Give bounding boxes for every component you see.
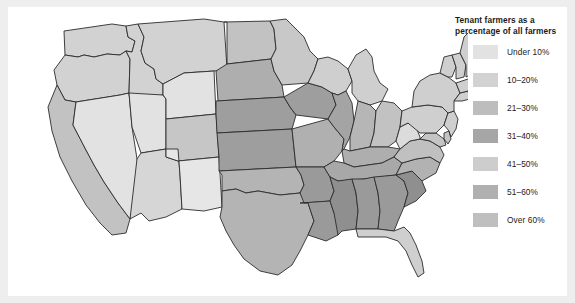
legend-label-51-60: 51–60% — [507, 187, 538, 197]
legend-label-31-40: 31–40% — [507, 131, 538, 141]
us-map-svg — [8, 7, 468, 296]
legend-label-21-30: 21–30% — [507, 103, 538, 113]
state-NE — [216, 97, 296, 133]
legend-title-line-1: Tenant farmers as a — [455, 15, 535, 25]
state-KS — [217, 129, 296, 171]
legend-item-51-60: 51–60% — [455, 184, 567, 199]
legend-swatch-41-50 — [473, 157, 498, 171]
map-plate: Tenant farmers as a percentage of all fa… — [8, 7, 567, 296]
legend-swatch-under-10 — [473, 45, 498, 59]
legend-swatch-over-60 — [473, 213, 498, 227]
legend-title: Tenant farmers as a percentage of all fa… — [455, 15, 567, 37]
state-GA — [374, 175, 408, 231]
figure-root: Tenant farmers as a percentage of all fa… — [0, 0, 575, 303]
legend-item-31-40: 31–40% — [455, 128, 567, 143]
legend-swatch-21-30 — [473, 101, 498, 115]
state-FL — [356, 227, 424, 277]
state-ND — [224, 21, 276, 64]
legend-title-line-2: percentage of all farmers — [455, 26, 556, 36]
legend-label-41-50: 41–50% — [507, 159, 538, 169]
legend-label-10-20: 10–20% — [507, 75, 538, 85]
legend-item-over-60: Over 60% — [455, 212, 567, 227]
legend-item-21-30: 21–30% — [455, 100, 567, 115]
state-TX — [220, 189, 314, 275]
legend-swatch-31-40 — [473, 129, 498, 143]
legend-label-under-10: Under 10% — [507, 47, 549, 57]
state-OR — [54, 51, 130, 102]
map-legend: Tenant farmers as a percentage of all fa… — [455, 15, 567, 240]
state-MN — [270, 19, 318, 85]
legend-item-41-50: 41–50% — [455, 156, 567, 171]
legend-item-under-10: Under 10% — [455, 44, 567, 59]
legend-label-over-60: Over 60% — [507, 215, 545, 225]
choropleth-map — [8, 7, 468, 296]
state-MI — [348, 49, 388, 105]
legend-item-10-20: 10–20% — [455, 72, 567, 87]
legend-swatch-51-60 — [473, 185, 498, 199]
legend-swatch-10-20 — [473, 73, 498, 87]
